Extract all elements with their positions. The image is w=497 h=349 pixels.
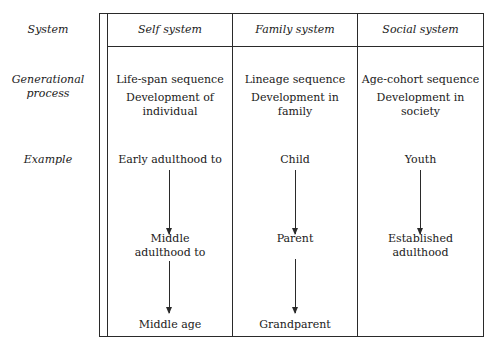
text-line: Development in bbox=[233, 91, 357, 105]
row-label-generational-process: Generational process bbox=[0, 73, 96, 101]
header-self-system: Self system bbox=[108, 13, 232, 46]
arrow-down-icon bbox=[295, 170, 296, 234]
example-self-1: Early adulthood to bbox=[108, 153, 232, 167]
process-self: Life-span sequence bbox=[108, 73, 232, 87]
right-border bbox=[483, 13, 484, 337]
header-divider bbox=[107, 46, 484, 47]
arrow-down-icon bbox=[169, 261, 170, 313]
inner-left-border bbox=[107, 13, 108, 337]
text-line: adulthood to bbox=[108, 246, 232, 260]
outer-left-border bbox=[99, 13, 100, 337]
row-label-system: System bbox=[0, 23, 96, 37]
text-line: Middle bbox=[108, 232, 232, 246]
bottom-border bbox=[99, 336, 484, 337]
label-line: process bbox=[0, 87, 96, 101]
header-family-system: Family system bbox=[233, 13, 357, 46]
process-family: Lineage sequence bbox=[233, 73, 357, 87]
text-line: Established bbox=[358, 232, 483, 246]
example-self-3: Middle age bbox=[108, 318, 232, 332]
column-divider-1 bbox=[232, 13, 233, 337]
text-line: adulthood bbox=[358, 246, 483, 260]
example-social-2: Established adulthood bbox=[358, 232, 483, 260]
arrow-down-icon bbox=[169, 170, 170, 234]
development-self: Development of individual bbox=[108, 91, 232, 119]
text-line: individual bbox=[108, 105, 232, 119]
arrow-down-icon bbox=[295, 259, 296, 313]
text-line: Development in bbox=[358, 91, 483, 105]
development-family: Development in family bbox=[233, 91, 357, 119]
column-divider-2 bbox=[357, 13, 358, 337]
example-family-2: Parent bbox=[233, 232, 357, 246]
row-label-example: Example bbox=[0, 153, 96, 167]
example-family-3: Grandparent bbox=[233, 318, 357, 332]
development-social: Development in society bbox=[358, 91, 483, 119]
header-social-system: Social system bbox=[358, 13, 483, 46]
text-line: family bbox=[233, 105, 357, 119]
example-family-1: Child bbox=[233, 153, 357, 167]
example-self-2: Middle adulthood to bbox=[108, 232, 232, 260]
process-social: Age-cohort sequence bbox=[358, 73, 483, 87]
arrow-down-icon bbox=[420, 170, 421, 234]
text-line: society bbox=[358, 105, 483, 119]
example-social-1: Youth bbox=[358, 153, 483, 167]
text-line: Development of bbox=[108, 91, 232, 105]
label-line: Generational bbox=[0, 73, 96, 87]
